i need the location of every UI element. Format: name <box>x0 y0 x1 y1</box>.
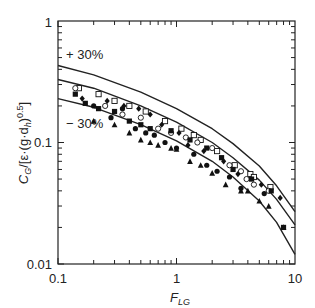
minus-30-annotation: − 30% <box>66 116 104 131</box>
data-point-filled-square <box>83 101 88 106</box>
y-title-end: ] <box>16 102 31 106</box>
y-tick-label-0.1: 0.1 <box>34 135 52 150</box>
data-point-open-circle <box>210 145 215 150</box>
data-point-filled-square <box>138 122 143 127</box>
data-point-filled-square <box>168 128 173 133</box>
data-point-filled-square <box>187 137 192 142</box>
data-point-filled-diamond <box>185 142 190 148</box>
data-point-open-circle <box>195 140 200 145</box>
data-point-open-square <box>191 133 196 138</box>
data-point-filled-circle <box>162 140 167 145</box>
data-point-filled-triangle <box>138 137 144 143</box>
data-point-filled-triangle <box>112 122 118 128</box>
data-point-filled-circle <box>133 126 138 131</box>
data-point-filled-triangle <box>198 162 204 168</box>
y-axis-title: CG/[ε·(g·dh)0.5] <box>15 102 33 184</box>
data-point-filled-circle <box>108 115 113 120</box>
data-point-open-square <box>143 109 148 114</box>
data-point-filled-square <box>112 109 117 114</box>
data-point-filled-circle <box>191 152 196 157</box>
data-point-filled-triangle <box>168 145 174 151</box>
data-point-open-circle <box>244 176 249 181</box>
x-tick-label-1: 1 <box>173 271 180 286</box>
plus-30-annotation: + 30% <box>66 47 104 62</box>
data-point-filled-triangle <box>187 158 193 164</box>
y-title-exp: 0.5 <box>15 105 25 118</box>
correlation-curves <box>58 66 295 255</box>
data-point-filled-diamond <box>80 95 85 101</box>
chart-canvas: 1 0.1 0.01 0.1 1 10 FLG CG/[ε·(g·dh)0.5]… <box>0 0 315 308</box>
data-point-filled-diamond <box>259 182 264 188</box>
data-point-filled-circle <box>143 130 148 135</box>
data-point-filled-square <box>127 119 132 124</box>
y-title-g-sub: G <box>23 168 33 175</box>
data-point-open-square <box>127 103 132 108</box>
y-tick-label-0.01: 0.01 <box>27 257 52 272</box>
data-point-open-circle <box>251 182 256 187</box>
data-point-open-circle <box>138 115 143 120</box>
curve--30- <box>58 66 295 212</box>
data-point-filled-square <box>230 167 235 172</box>
data-point-filled-square <box>249 176 254 181</box>
data-point-filled-circle <box>262 191 267 196</box>
x-axis-title-sub: LG <box>178 297 190 307</box>
data-point-filled-triangle <box>126 130 132 136</box>
data-point-filled-triangle <box>266 203 272 209</box>
x-axis-title: FLG <box>170 290 190 307</box>
data-point-open-circle <box>156 126 161 131</box>
data-point-filled-circle <box>204 163 209 168</box>
data-point-filled-diamond <box>278 195 283 201</box>
data-point-filled-circle <box>214 169 219 174</box>
data-point-filled-triangle <box>209 170 215 176</box>
data-markers <box>73 86 287 230</box>
x-tick-label-0.1: 0.1 <box>49 271 67 286</box>
data-point-open-square <box>112 98 117 103</box>
data-point-filled-triangle <box>155 142 161 148</box>
data-point-filled-circle <box>227 174 232 179</box>
y-axis-ticks <box>58 27 295 264</box>
data-point-open-square <box>214 148 219 153</box>
data-point-open-circle <box>103 103 108 108</box>
data-point-filled-circle <box>152 133 157 138</box>
y-title-mid: /[ε·(g·d <box>16 127 31 167</box>
data-point-open-circle <box>73 86 78 91</box>
y-tick-label-1: 1 <box>45 15 52 30</box>
data-point-filled-triangle <box>223 182 229 188</box>
data-point-open-circle <box>120 112 125 117</box>
data-point-filled-square <box>148 126 153 131</box>
data-point-open-square <box>162 119 167 124</box>
data-point-filled-triangle <box>147 139 153 145</box>
data-point-filled-square <box>73 92 78 97</box>
data-point-filled-square <box>96 106 101 111</box>
x-tick-label-10: 10 <box>288 271 302 286</box>
data-point-open-square <box>96 92 101 97</box>
data-point-filled-circle <box>91 103 96 108</box>
data-point-filled-square <box>269 188 274 193</box>
